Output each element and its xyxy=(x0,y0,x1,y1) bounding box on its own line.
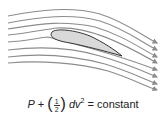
pressure-symbol: P xyxy=(27,98,34,110)
one-half-fraction: 12 xyxy=(54,98,60,113)
close-paren: ) xyxy=(61,95,66,112)
bernoulli-equation: P + (12) dv2 = constant xyxy=(0,96,166,114)
streamline-7 xyxy=(8,55,157,84)
plus-sign: + xyxy=(38,98,44,110)
open-paren: ( xyxy=(47,95,52,112)
streamlines xyxy=(8,10,157,90)
streamline-8 xyxy=(8,62,157,90)
constant-label: constant xyxy=(97,98,139,110)
fraction-numerator: 1 xyxy=(54,98,60,106)
exponent: 2 xyxy=(81,97,85,104)
streamline-diagram xyxy=(0,0,166,95)
equals-sign: = xyxy=(88,98,94,110)
fraction-denominator: 2 xyxy=(54,106,60,113)
